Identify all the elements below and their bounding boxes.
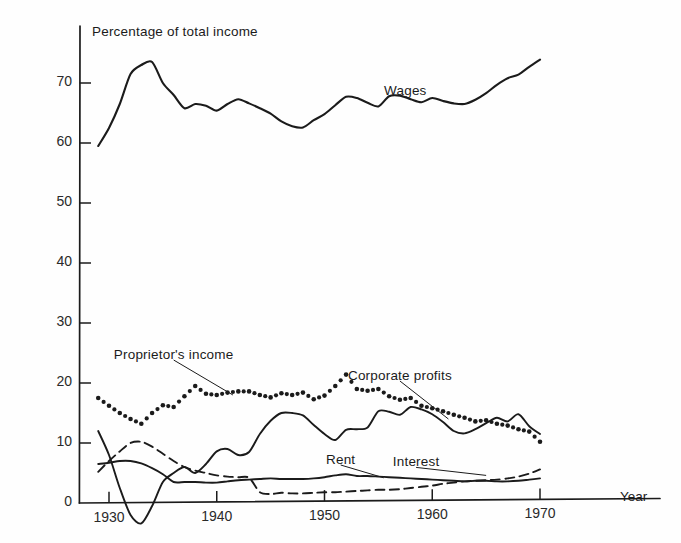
x-axis-tick-label: 1940 bbox=[187, 508, 247, 524]
data-dot bbox=[252, 391, 256, 395]
data-dot bbox=[419, 404, 424, 409]
y-axis-tick-label: 40 bbox=[0, 253, 72, 269]
data-dot bbox=[462, 416, 467, 421]
data-dot bbox=[387, 394, 392, 399]
data-dot bbox=[214, 393, 219, 398]
y-axis-line bbox=[79, 26, 80, 503]
data-dot bbox=[182, 394, 187, 399]
data-dot bbox=[495, 422, 500, 427]
data-dot bbox=[161, 403, 166, 408]
data-dot bbox=[209, 392, 213, 396]
data-dot bbox=[188, 389, 192, 393]
data-dot bbox=[414, 400, 418, 404]
data-dot bbox=[311, 397, 316, 402]
y-axis-tick-label: 30 bbox=[0, 313, 72, 329]
y-axis-tick-label: 20 bbox=[0, 373, 72, 389]
data-dot bbox=[107, 404, 112, 409]
data-dot bbox=[500, 423, 504, 427]
data-dot bbox=[279, 391, 284, 396]
data-dot bbox=[317, 395, 321, 399]
data-dot bbox=[290, 393, 295, 398]
data-dot bbox=[371, 388, 375, 392]
series-interest bbox=[98, 442, 540, 494]
data-dot bbox=[220, 392, 224, 396]
data-dot bbox=[295, 392, 299, 396]
data-dot bbox=[112, 407, 116, 411]
x-axis-tick-label: 1960 bbox=[402, 506, 462, 522]
y-axis-tick-label: 70 bbox=[0, 73, 72, 89]
series-label-wages: Wages bbox=[384, 83, 427, 98]
data-dot bbox=[166, 404, 170, 408]
x-axis-tick-label: 1970 bbox=[510, 505, 570, 521]
data-dot bbox=[403, 397, 407, 401]
income-shares-chart: 01020304050607019301940195019601970Wages… bbox=[0, 0, 681, 543]
series-proprietor-s-income bbox=[96, 372, 542, 444]
series-label-rent: Rent bbox=[326, 452, 355, 467]
data-dot bbox=[360, 388, 364, 392]
data-dot bbox=[446, 411, 450, 415]
series-wages bbox=[98, 60, 540, 146]
data-dot bbox=[355, 387, 360, 392]
y-axis-tick-label: 50 bbox=[0, 193, 72, 209]
data-dot bbox=[123, 414, 127, 418]
y-axis-tick-label: 0 bbox=[0, 493, 72, 509]
data-dot bbox=[382, 391, 386, 395]
data-dot bbox=[177, 400, 181, 404]
data-dot bbox=[242, 389, 246, 393]
data-dot bbox=[339, 378, 343, 382]
data-dot bbox=[441, 409, 446, 414]
y-axis-tick-label: 60 bbox=[0, 133, 72, 149]
data-dot bbox=[285, 392, 289, 396]
data-dot bbox=[139, 422, 144, 427]
data-dot bbox=[328, 389, 332, 393]
x-axis-tick-label: 1930 bbox=[79, 509, 139, 525]
x-axis-line bbox=[79, 499, 660, 504]
data-dot bbox=[516, 427, 521, 432]
data-dot bbox=[468, 418, 472, 422]
series-label-corporate-profits: Corporate profits bbox=[348, 368, 452, 383]
data-dot bbox=[533, 435, 537, 439]
data-dot bbox=[527, 429, 532, 434]
data-dot bbox=[96, 396, 101, 401]
data-dot bbox=[333, 384, 338, 389]
data-dot bbox=[511, 425, 515, 429]
data-dot bbox=[479, 419, 483, 423]
y-axis-tick-label: 10 bbox=[0, 433, 72, 449]
data-dot bbox=[473, 419, 478, 424]
data-dot bbox=[301, 390, 306, 395]
data-dot bbox=[258, 393, 263, 398]
data-dot bbox=[231, 390, 235, 394]
data-dot bbox=[150, 411, 155, 416]
data-dot bbox=[204, 392, 209, 397]
data-dot bbox=[408, 396, 413, 401]
data-dot bbox=[155, 407, 159, 411]
data-dot bbox=[247, 389, 252, 394]
leader-line-corporate-profits bbox=[400, 381, 448, 419]
data-dot bbox=[505, 423, 510, 428]
data-dot bbox=[392, 396, 396, 400]
data-dot bbox=[398, 398, 403, 403]
data-dot bbox=[134, 419, 138, 423]
data-dot bbox=[538, 440, 543, 445]
x-axis-tick-label: 1950 bbox=[295, 507, 355, 523]
data-dot bbox=[128, 417, 133, 422]
data-dot bbox=[452, 413, 457, 418]
series-label-interest: Interest bbox=[393, 454, 440, 469]
data-dot bbox=[322, 393, 327, 398]
data-dot bbox=[117, 411, 122, 416]
data-dot bbox=[306, 394, 310, 398]
data-dot bbox=[522, 428, 526, 432]
data-dot bbox=[236, 389, 241, 394]
data-dot bbox=[425, 405, 429, 409]
data-dot bbox=[274, 393, 278, 397]
data-dot bbox=[365, 389, 370, 394]
data-dot bbox=[102, 400, 106, 404]
data-dot bbox=[198, 388, 202, 392]
series-corporate-profits bbox=[98, 407, 540, 524]
data-dot bbox=[376, 387, 381, 392]
data-dot bbox=[193, 384, 198, 389]
data-dot bbox=[263, 394, 267, 398]
data-dot bbox=[145, 416, 149, 420]
data-dot bbox=[171, 405, 176, 410]
data-dot bbox=[457, 414, 461, 418]
